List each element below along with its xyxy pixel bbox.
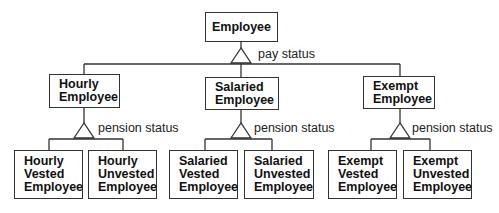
pay-status-label: pay status <box>258 47 315 61</box>
class-name-line: Employee <box>24 181 82 194</box>
employee-box: Employee <box>205 12 278 42</box>
exempt-vested-employee-box: Exempt Vested Employee <box>328 150 397 199</box>
class-name-line: Employee <box>59 91 119 104</box>
hourly-vested-employee-box: Hourly Vested Employee <box>14 150 83 199</box>
salaried-unvested-employee-box: Salaried Unvested Employee <box>244 150 314 199</box>
generalization-triangle-icon <box>390 123 410 138</box>
hourly-unvested-employee-box: Hourly Unvested Employee <box>88 150 157 199</box>
class-name-line: Employee <box>373 93 434 106</box>
pension-status-label: pension status <box>98 121 179 135</box>
class-name-line: Employee <box>413 181 471 194</box>
salaried-vested-employee-box: Salaried Vested Employee <box>169 150 238 199</box>
class-name-line: Salaried <box>215 81 278 94</box>
class-name-line: Employee <box>98 181 156 194</box>
class-name-line: Employee <box>338 181 396 194</box>
class-name-line: Exempt <box>373 80 434 93</box>
exempt-employee-box: Exempt Employee <box>363 76 435 109</box>
class-name-line: Employee <box>179 181 237 194</box>
exempt-unvested-employee-box: Exempt Unvested Employee <box>403 150 472 199</box>
generalization-triangle-icon <box>74 123 94 138</box>
pension-status-label: pension status <box>254 121 335 135</box>
hourly-employee-box: Hourly Employee <box>49 74 120 108</box>
class-name-line: Employee <box>215 94 278 107</box>
class-name: Employee <box>212 21 271 34</box>
salaried-employee-box: Salaried Employee <box>205 77 279 110</box>
pension-status-label: pension status <box>412 121 493 135</box>
class-name-line: Employee <box>254 181 313 194</box>
generalization-triangle-icon <box>231 48 251 63</box>
generalization-triangle-icon <box>231 123 251 138</box>
